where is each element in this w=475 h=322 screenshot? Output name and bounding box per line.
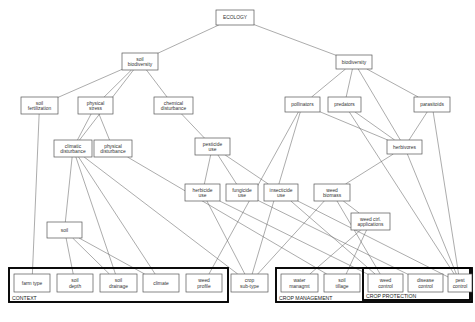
node-weed_biomass[interactable]: weedbiomass bbox=[314, 184, 350, 201]
edge-pesticide_use-to-insecticide_use bbox=[225, 155, 268, 184]
node-label: ECOLOGY bbox=[223, 15, 248, 20]
node-label: soil bbox=[71, 278, 78, 283]
node-label: herbicide bbox=[193, 188, 213, 193]
node-label: biodiversity bbox=[342, 60, 367, 65]
node-label: biodiversity bbox=[128, 62, 153, 67]
edge-parasitoids-to-herbivores bbox=[409, 112, 427, 140]
node-chemical_disturbance[interactable]: chemicaldisturbance bbox=[154, 97, 193, 114]
node-pest_control[interactable]: pestcontrol bbox=[448, 274, 472, 292]
node-label: control bbox=[453, 284, 468, 289]
node-label: disturbance bbox=[60, 149, 86, 154]
group-label: CONTEXT bbox=[12, 295, 38, 301]
node-water_managmt[interactable]: watermanagmt bbox=[281, 274, 318, 292]
node-soil_depth[interactable]: soildepth bbox=[57, 274, 93, 292]
edge-pesticide_use-to-fungicide_use bbox=[218, 155, 237, 184]
node-label: pollinators bbox=[291, 102, 314, 107]
node-herbivores[interactable]: herbivores bbox=[387, 140, 422, 154]
edge-soil_biodiversity-to-soil_fertilization bbox=[58, 69, 122, 97]
edge-herbicide_use-to-weed_control bbox=[220, 201, 368, 274]
edge-biodiversity-to-parasitoids bbox=[367, 69, 418, 97]
node-label: disease bbox=[417, 278, 434, 283]
edge-soil_fertilization-to-farm_type bbox=[32, 114, 39, 274]
node-crop_subtype[interactable]: cropsub-type bbox=[231, 274, 268, 292]
node-parasitoids[interactable]: parasitoids bbox=[414, 97, 450, 112]
node-label: weed bbox=[326, 188, 338, 193]
node-climate[interactable]: climate bbox=[143, 274, 179, 292]
node-weed_ctrl_applications[interactable]: weed ctrl.applications bbox=[351, 213, 390, 230]
edge-biodiversity-to-pollinators bbox=[312, 69, 346, 97]
node-label: control bbox=[378, 284, 393, 289]
edge-herbicide_use-to-crop_subtype bbox=[207, 201, 245, 274]
node-label: parasitoids bbox=[420, 102, 444, 107]
node-soil_biodiversity[interactable]: soilbiodiversity bbox=[122, 53, 158, 70]
node-label: use bbox=[209, 147, 217, 152]
node-weed_profile[interactable]: weedprofile bbox=[186, 274, 222, 292]
node-label: water bbox=[294, 278, 306, 283]
node-label: soil bbox=[115, 278, 122, 283]
node-disease_control[interactable]: diseasecontrol bbox=[408, 274, 443, 292]
node-climatic_disturbance[interactable]: climaticdisturbance bbox=[54, 140, 92, 157]
edge-weed_biomass-to-weed_ctrl_applications bbox=[343, 201, 359, 213]
node-soil_fertilization[interactable]: soilfertilization bbox=[21, 97, 58, 114]
node-label: profile bbox=[197, 284, 211, 289]
node-pollinators[interactable]: pollinators bbox=[285, 97, 320, 112]
diagram-canvas: CONTEXTCROP MANAGEMENTCROP PROTECTION EC… bbox=[0, 0, 475, 322]
node-label: soil bbox=[338, 278, 345, 283]
node-label: predators bbox=[334, 102, 355, 107]
node-label: stress bbox=[89, 106, 103, 111]
node-label: control bbox=[418, 284, 433, 289]
node-label: physical bbox=[87, 101, 105, 106]
node-label: managmt bbox=[289, 284, 310, 289]
node-label: fertilization bbox=[28, 106, 52, 111]
node-label: use bbox=[277, 193, 285, 198]
node-label: soil bbox=[136, 57, 143, 62]
node-soil_drainage[interactable]: soildrainage bbox=[100, 274, 137, 292]
node-label: insecticide bbox=[270, 188, 293, 193]
node-soil_tillage[interactable]: soiltillage bbox=[324, 274, 360, 292]
node-soil[interactable]: soil bbox=[47, 222, 82, 238]
edge-climatic_disturbance-to-soil bbox=[65, 157, 72, 222]
node-label: drainage bbox=[109, 284, 128, 289]
edge-predators-to-pest_control bbox=[349, 112, 454, 274]
node-label: weed ctrl. bbox=[360, 217, 381, 222]
edge-climatic_disturbance-to-climate bbox=[79, 157, 156, 274]
node-fungicide_use[interactable]: fungicideuse bbox=[226, 184, 258, 201]
node-weed_control[interactable]: weedcontrol bbox=[368, 274, 403, 292]
node-insecticide_use[interactable]: insecticideuse bbox=[264, 184, 298, 201]
node-label: climatic bbox=[65, 144, 82, 149]
node-ecology[interactable]: ECOLOGY bbox=[216, 10, 254, 25]
edge-soil_biodiversity-to-physical_stress bbox=[104, 70, 131, 97]
node-predators[interactable]: predators bbox=[328, 97, 361, 112]
node-label: weed bbox=[380, 278, 392, 283]
node-label: tillage bbox=[336, 284, 349, 289]
node-physical_disturbance[interactable]: physicaldisturbance bbox=[94, 140, 132, 157]
node-biodiversity[interactable]: biodiversity bbox=[336, 55, 372, 69]
node-label: use bbox=[238, 193, 246, 198]
edge-climatic_disturbance-to-soil_drainage bbox=[76, 157, 116, 274]
node-farm_type[interactable]: farm type bbox=[14, 274, 50, 292]
nodes-layer: ECOLOGYsoilbiodiversitybiodiversitysoilf… bbox=[14, 10, 472, 292]
group-label: CROP PROTECTION bbox=[366, 293, 417, 299]
group-label: CROP MANAGEMENT bbox=[279, 295, 333, 301]
figure-container: CONTEXTCROP MANAGEMENTCROP PROTECTION EC… bbox=[0, 0, 475, 322]
node-label: disturbance bbox=[161, 106, 187, 111]
edge-pollinators-to-herbivores bbox=[320, 112, 388, 140]
edge-insecticide_use-to-pest_control bbox=[298, 201, 448, 277]
node-label: sub-type bbox=[240, 284, 259, 289]
node-pesticide_use[interactable]: pesticideuse bbox=[195, 138, 230, 155]
edge-ecology-to-soil_biodiversity bbox=[158, 25, 219, 53]
node-label: chemical bbox=[164, 101, 183, 106]
node-label: use bbox=[199, 193, 207, 198]
node-label: fungicide bbox=[232, 188, 252, 193]
node-label: physical bbox=[104, 144, 122, 149]
node-label: soil bbox=[36, 101, 43, 106]
node-physical_stress[interactable]: physicalstress bbox=[78, 97, 113, 114]
edge-parasitoids-to-pest_control bbox=[433, 112, 458, 274]
edge-ecology-to-biodiversity bbox=[254, 25, 336, 56]
node-label: pesticide bbox=[203, 142, 223, 147]
edge-weed_biomass-to-crop_subtype bbox=[258, 201, 325, 274]
edge-weed_biomass-to-weed_control bbox=[337, 201, 380, 274]
edge-biodiversity-to-predators bbox=[346, 69, 352, 97]
edge-insecticide_use-to-weed_control bbox=[291, 201, 375, 274]
node-herbicide_use[interactable]: herbicideuse bbox=[185, 184, 220, 201]
